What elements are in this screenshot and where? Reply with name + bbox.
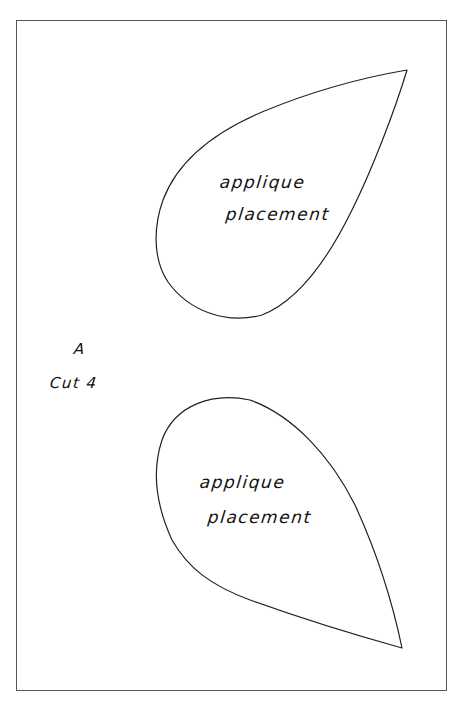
pattern-shapes (0, 0, 458, 704)
bottom-shape-label-line1: applique (199, 472, 287, 492)
cut-instruction: Cut 4 (49, 374, 99, 392)
top-teardrop-outline (156, 70, 407, 318)
top-shape-label-line2: placement (225, 204, 331, 224)
top-shape-label-line1: applique (219, 172, 307, 192)
bottom-shape-label-line2: placement (207, 507, 313, 527)
piece-letter: A (73, 340, 87, 358)
